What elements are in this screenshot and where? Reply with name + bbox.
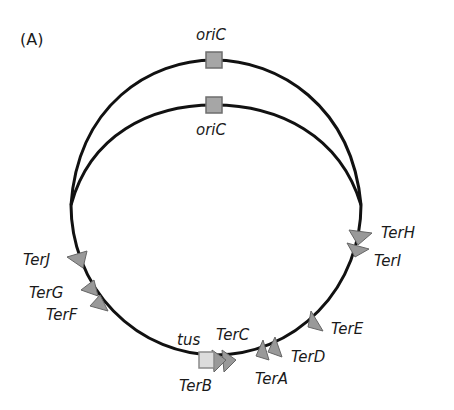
terg-triangle <box>81 280 98 296</box>
terj-label: TerJ <box>23 251 50 269</box>
terd-label: TerD <box>291 348 325 366</box>
tera-label: TerA <box>255 370 288 388</box>
chromosome-diagram: (A) oriC oriC TerH TerI TerE TerD TerA T… <box>0 0 454 410</box>
terj-triangle <box>67 251 87 268</box>
teri-label: TerI <box>374 252 402 270</box>
oric-outer-marker <box>206 52 222 68</box>
terb-label: TerB <box>179 377 212 395</box>
tere-label: TerE <box>331 320 364 338</box>
tus-label: tus <box>177 331 200 349</box>
terc-label: TerC <box>216 326 250 344</box>
replication-terminus-diagram: (A) oriC oriC TerH TerI TerE TerD TerA T… <box>0 0 454 410</box>
tus-gene-box <box>199 352 214 368</box>
panel-label: (A) <box>20 30 43 49</box>
terg-label: TerG <box>29 284 63 302</box>
terf-label: TerF <box>46 306 78 324</box>
oric-inner-marker <box>206 97 222 113</box>
inner-replicated-arc <box>71 105 361 205</box>
terh-label: TerH <box>381 224 415 242</box>
oric-outer-label: oriC <box>196 26 227 44</box>
oric-inner-label: oriC <box>196 121 227 139</box>
terh-triangle <box>349 230 372 245</box>
